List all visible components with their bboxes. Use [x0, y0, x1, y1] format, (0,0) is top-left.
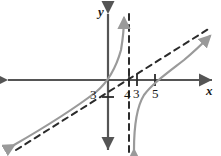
graph-canvas [0, 0, 221, 156]
curve-right-branch [134, 36, 210, 150]
tick-label-4: 4 [124, 88, 131, 101]
tick-label-3: 3 [133, 87, 140, 100]
x-axis-label: x [206, 84, 213, 97]
rational-function-figure: y x 3 4 3 5 [0, 0, 221, 156]
tick-label-5: 5 [152, 87, 159, 100]
slant-asymptote [16, 28, 210, 150]
y-axis-label: y [98, 5, 104, 18]
tick-label-neg-3: 3 [90, 88, 97, 101]
